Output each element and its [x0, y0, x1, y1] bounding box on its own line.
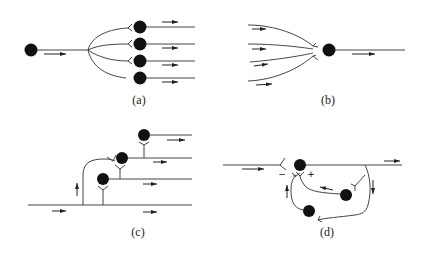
branch — [355, 175, 365, 186]
inhibitory-sign: − — [279, 168, 285, 180]
excitatory-sign: + — [308, 168, 314, 180]
panel-a-divergent: (a) — [25, 21, 196, 108]
synapse-terminal — [115, 165, 125, 169]
neuron — [97, 173, 109, 185]
branch — [88, 50, 126, 78]
arrow-left-icon — [320, 187, 333, 190]
recurrent-branch — [300, 176, 340, 194]
branch — [248, 44, 313, 49]
panel-label: (c) — [131, 225, 144, 239]
branch — [88, 44, 128, 50]
synapse-terminal — [98, 186, 108, 190]
branch — [250, 53, 313, 62]
synapse-terminal — [128, 57, 132, 64]
neuron — [134, 21, 147, 34]
neuron — [134, 38, 147, 51]
neuron — [134, 55, 147, 68]
panel-label: (b) — [321, 93, 335, 107]
neural-circuit-figure: (a) (b) — [0, 0, 427, 257]
panel-b-convergent: (b) — [248, 25, 405, 107]
synapse-terminal — [351, 184, 355, 191]
branch — [88, 50, 128, 61]
neuron — [138, 129, 150, 141]
arrow-right-icon — [254, 64, 268, 66]
synapse-terminal — [107, 155, 116, 161]
panel-c-chain: (c) — [28, 129, 192, 239]
panel-label: (d) — [320, 225, 334, 239]
neuron — [116, 152, 128, 164]
synapse-terminal — [313, 43, 318, 47]
synapse-terminal — [128, 24, 132, 31]
branch — [88, 28, 128, 50]
neuron — [323, 44, 336, 57]
arrow-right-icon — [256, 84, 272, 85]
branch — [248, 25, 313, 46]
panel-d-recurrent: − + (d) — [223, 158, 402, 239]
branch — [248, 56, 313, 81]
neuron — [340, 189, 352, 201]
neuron — [134, 72, 147, 85]
synapse-terminal — [128, 40, 132, 47]
neuron — [25, 44, 38, 57]
synapse-terminal — [139, 142, 149, 145]
neuron — [294, 159, 306, 171]
panel-label: (a) — [132, 93, 145, 107]
synapse-terminal — [313, 55, 318, 60]
neuron — [303, 205, 315, 217]
